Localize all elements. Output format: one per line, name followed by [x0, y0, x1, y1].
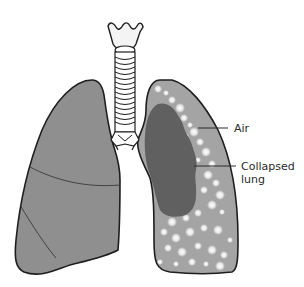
right-lung	[15, 80, 120, 274]
collapsed-label-line2: lung	[241, 173, 265, 186]
pneumothorax-diagram: Air Collapsed lung	[0, 0, 304, 287]
collapsed-label-line1: Collapsed	[241, 160, 295, 173]
trachea	[108, 23, 143, 150]
air-label: Air	[234, 122, 250, 135]
